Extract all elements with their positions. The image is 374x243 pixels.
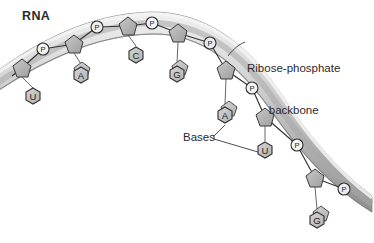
base-letter: U <box>30 91 37 102</box>
phosphate-circle: P <box>338 183 350 195</box>
phosphate-circle: P <box>37 43 49 55</box>
base-letter: A <box>222 110 229 121</box>
phosphate-letter: P <box>341 185 346 194</box>
base-stem <box>225 79 226 104</box>
base-hexagon-u: U <box>26 88 40 104</box>
phosphate-circle: P <box>204 37 216 49</box>
base-stem <box>22 77 33 88</box>
phosphate-letter: P <box>94 23 99 32</box>
bases-label: Bases <box>183 131 215 143</box>
backbone-label-line1: Ribose-phosphate <box>247 61 340 75</box>
phosphate-letter: P <box>207 39 212 48</box>
phosphate-letter: P <box>149 19 154 28</box>
phosphate-circle: P <box>91 21 103 33</box>
ribose-phosphate-backbone-label: Ribose-phosphate backbone <box>247 33 340 145</box>
base-letter: A <box>78 70 85 81</box>
base-letter: G <box>313 215 320 226</box>
base-stem <box>177 42 178 63</box>
base-letter: G <box>173 69 180 80</box>
base-hexagon-g2: G <box>310 212 324 228</box>
rna-diagram-figure: U A C G A <box>0 0 374 243</box>
phosphate-circle: P <box>146 17 158 29</box>
rna-title-label: RNA <box>22 9 50 23</box>
base-letter: U <box>262 145 269 156</box>
base-stem <box>74 53 81 64</box>
base-hexagon-a2: A <box>218 107 232 123</box>
phosphate-letter: P <box>40 45 45 54</box>
backbone-label-line2: backbone <box>247 103 340 117</box>
base-hexagon-g: G <box>170 66 184 82</box>
bases-leader-line-a <box>214 125 225 136</box>
base-hexagon-c: C <box>129 47 143 63</box>
base-stem <box>128 35 136 46</box>
base-hexagon-a: A <box>74 67 88 83</box>
base-letter: C <box>133 50 140 61</box>
base-stem <box>315 187 317 209</box>
